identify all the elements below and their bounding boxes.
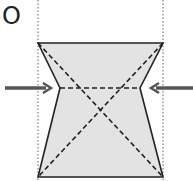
right-arrow-icon [151, 83, 193, 93]
left-arrow-icon [5, 83, 51, 93]
compression-diagram [0, 0, 193, 181]
